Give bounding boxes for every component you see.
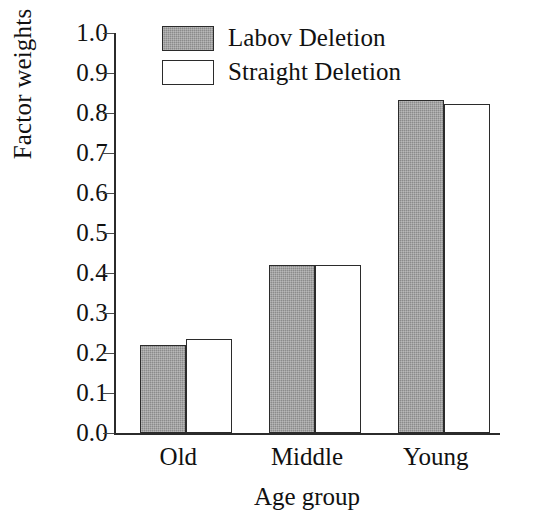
x-axis-line <box>114 433 500 435</box>
legend-label-labov-deletion: Labov Deletion <box>228 24 386 52</box>
y-tick-label: 0.9 <box>46 60 108 85</box>
legend-swatch-straight-deletion <box>162 60 214 85</box>
y-tick-mark <box>103 113 114 114</box>
y-tick-mark <box>103 393 114 394</box>
x-axis-tick-labels: OldMiddleYoung <box>114 440 500 474</box>
y-tick-mark <box>103 73 114 74</box>
legend-item-1: Straight Deletion <box>162 55 492 89</box>
x-tick-label-middle: Middle <box>243 440 372 474</box>
legend-label-straight-deletion: Straight Deletion <box>228 58 401 86</box>
bar-young-labov-deletion <box>398 100 444 433</box>
legend-swatch-labov-deletion <box>162 26 214 51</box>
y-tick-mark <box>103 353 114 354</box>
y-tick-mark <box>103 233 114 234</box>
y-tick-label: 1.0 <box>46 20 108 45</box>
y-axis-line <box>114 33 116 434</box>
x-tick-label-old: Old <box>114 440 243 474</box>
y-tick-mark <box>103 273 114 274</box>
y-tick-label: 0.1 <box>46 380 108 405</box>
bar-middle-straight-deletion <box>315 265 361 433</box>
bar-old-straight-deletion <box>186 339 232 433</box>
y-tick-label: 0.0 <box>46 420 108 445</box>
plot-area: Labov Deletion Straight Deletion <box>114 33 500 433</box>
y-tick-label: 0.8 <box>46 100 108 125</box>
legend-item-0: Labov Deletion <box>162 21 492 55</box>
y-tick-label: 0.5 <box>46 220 108 245</box>
y-tick-label: 0.6 <box>46 180 108 205</box>
y-tick-label: 0.7 <box>46 140 108 165</box>
y-axis-title: Factor weights <box>6 0 40 184</box>
y-tick-label: 0.4 <box>46 260 108 285</box>
y-tick-label: 0.3 <box>46 300 108 325</box>
y-tick-mark <box>103 433 114 434</box>
y-axis-tick-labels: 0.00.10.20.30.40.50.60.70.80.91.0 <box>46 33 108 433</box>
x-tick-label-young: Young <box>371 440 500 474</box>
y-tick-mark <box>103 33 114 34</box>
y-tick-label: 0.2 <box>46 340 108 365</box>
bar-middle-labov-deletion <box>269 265 315 433</box>
bar-chart-figure: Factor weights 0.00.10.20.30.40.50.60.70… <box>0 0 546 532</box>
y-tick-mark <box>103 193 114 194</box>
bar-old-labov-deletion <box>140 345 186 433</box>
bar-young-straight-deletion <box>444 104 490 433</box>
y-tick-mark <box>103 153 114 154</box>
legend: Labov Deletion Straight Deletion <box>162 21 492 89</box>
y-tick-mark <box>103 313 114 314</box>
x-axis-title: Age group <box>114 482 500 512</box>
